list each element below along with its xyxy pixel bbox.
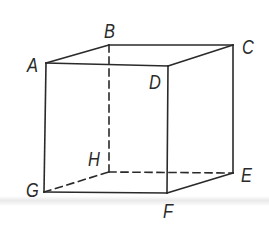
- edge-gf: [44, 192, 167, 193]
- vertex-label-f: F: [163, 201, 173, 221]
- cube-diagram: [0, 0, 269, 230]
- visible-edges: [44, 45, 233, 193]
- edge-ad: [46, 63, 168, 66]
- edge-ag: [44, 63, 46, 192]
- edge-df: [167, 66, 168, 193]
- edge-he-hidden: [109, 172, 233, 173]
- vertex-label-h: H: [88, 149, 100, 169]
- vertex-label-d: D: [149, 72, 161, 92]
- edge-fe: [167, 173, 233, 193]
- edge-cd: [168, 45, 233, 66]
- edge-gh-hidden: [44, 172, 109, 192]
- vertex-label-b: B: [104, 21, 115, 41]
- edge-ab: [46, 45, 109, 63]
- vertex-label-e: E: [241, 165, 252, 185]
- hidden-edges-dashed: [44, 45, 233, 192]
- vertex-label-c: C: [242, 37, 254, 57]
- vertex-label-g: G: [26, 180, 39, 200]
- vertex-label-a: A: [27, 55, 38, 75]
